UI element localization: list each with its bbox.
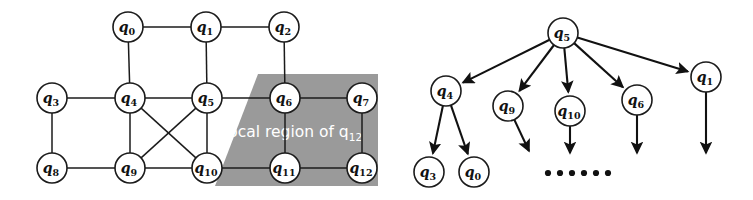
tree-ellipsis-dot-0: [545, 170, 551, 176]
tree-ellipsis-dot-2: [569, 170, 575, 176]
tree-node-t_q4[interactable]: q4: [431, 76, 461, 106]
tree-node-t_q0[interactable]: q0: [459, 157, 489, 187]
tree-node-layer: q5q4q9q10q6q1q3q0: [414, 18, 721, 187]
graph-node-q9[interactable]: q9: [115, 153, 145, 183]
tree-ellipsis: [545, 170, 611, 176]
tree-node-t_q1[interactable]: q1: [691, 62, 721, 92]
graph-node-q11[interactable]: q11: [270, 153, 300, 183]
graph-node-q0[interactable]: q0: [113, 12, 143, 42]
graph-node-q2[interactable]: q2: [269, 12, 299, 42]
graph-node-q3[interactable]: q3: [37, 83, 67, 113]
graph-node-q1[interactable]: q1: [191, 12, 221, 42]
graph-node-q10[interactable]: q10: [192, 153, 222, 183]
local-region-label: local region of q12: [224, 123, 362, 143]
figure-canvas: local region of q12 q0q1q2q3q4q5q6q7q8q9…: [0, 0, 753, 200]
graph-node-q6[interactable]: q6: [270, 83, 300, 113]
tree-node-t_q3[interactable]: q3: [414, 157, 444, 187]
tree-ellipsis-dot-5: [605, 170, 611, 176]
tree-node-t_q6[interactable]: q6: [622, 85, 652, 115]
tree-edge-t_q4-t_q3: [433, 106, 443, 154]
tree-node-t_q5[interactable]: q5: [548, 18, 578, 48]
local-region-label-subscript: 12: [349, 131, 362, 143]
graph-node-q7[interactable]: q7: [347, 83, 377, 113]
graph-edge-q0-q4: [128, 42, 129, 83]
tree-ellipsis-dot-1: [557, 170, 563, 176]
tree-dangling-edge-t_q9-0: [514, 120, 529, 151]
graph-node-q12[interactable]: q12: [347, 153, 377, 183]
tree-edge-t_q5-t_q4: [463, 40, 550, 83]
tree-ellipsis-dot-4: [593, 170, 599, 176]
graph-node-q8[interactable]: q8: [37, 153, 67, 183]
tree-edge-t_q5-t_q10: [564, 48, 568, 92]
figure-root: local region of q12 q0q1q2q3q4q5q6q7q8q9…: [0, 0, 753, 200]
tree-edge-t_q4-t_q0: [451, 105, 468, 154]
tree-ellipsis-dot-3: [581, 170, 587, 176]
tree-node-t_q9[interactable]: q9: [493, 91, 523, 121]
tree-edge-t_q5-t_q1: [577, 37, 688, 71]
graph-edge-q1-q5: [206, 42, 207, 83]
graph-edge-q2-q6: [284, 42, 285, 83]
graph-node-q4[interactable]: q4: [115, 83, 145, 113]
graph-node-q5[interactable]: q5: [192, 83, 222, 113]
tree-node-t_q10[interactable]: q10: [555, 96, 585, 126]
local-region-label-text: local region of q: [224, 123, 349, 141]
